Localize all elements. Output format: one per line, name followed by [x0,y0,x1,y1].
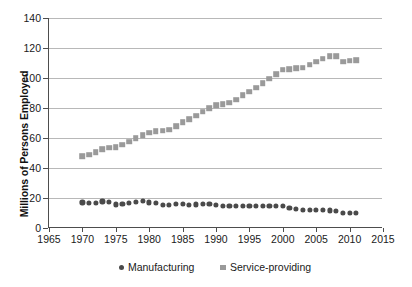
data-point [233,204,238,209]
data-point [340,59,346,65]
data-point [300,65,306,71]
data-point [180,119,186,125]
data-point [86,152,92,158]
data-point [100,146,106,152]
data-point [120,142,126,148]
data-point [113,144,119,150]
y-gridline [49,198,382,199]
legend-label-service-providing: Service-providing [230,262,311,273]
data-point [340,210,345,215]
data-point [213,102,219,108]
square-marker-icon [220,265,226,271]
data-point [213,202,218,207]
data-point [300,207,305,212]
data-point [166,127,172,133]
data-point [186,116,192,122]
data-point [100,199,105,204]
y-tick-mark [43,168,48,169]
legend-entry-service-providing: Service-providing [220,262,311,273]
legend-label-manufacturing: Manufacturing [128,262,195,273]
data-point [307,62,313,68]
data-point [93,200,98,205]
x-tick-mark [249,228,250,232]
x-tick-mark [383,228,384,232]
data-point [353,57,359,63]
data-point [327,53,333,59]
x-tick-mark [283,228,284,232]
y-tick-mark [43,198,48,199]
data-point [320,208,325,213]
y-gridline [49,108,382,109]
data-point [253,203,258,208]
data-point [260,80,266,86]
data-point [167,202,172,207]
data-point [80,153,86,159]
data-point [113,202,118,207]
data-point [160,202,165,207]
data-point [93,149,99,155]
data-point [227,204,232,209]
data-point [187,202,192,207]
data-point [260,203,265,208]
data-point [287,205,292,210]
y-gridline [49,168,382,169]
data-point [200,202,205,207]
y-gridline [49,78,382,79]
data-point [153,200,158,205]
x-tick-mark [116,228,117,232]
y-tick-mark [43,228,48,229]
data-point [120,201,125,206]
data-point [240,92,246,98]
data-point [287,66,293,72]
data-point [220,203,225,208]
x-tick-mark [216,228,217,232]
y-tick-mark [43,108,48,109]
data-point [227,100,233,106]
x-tick-mark [49,228,50,232]
data-point [333,53,339,59]
data-point [307,207,312,212]
data-point [107,199,112,204]
data-point [294,207,299,212]
data-point [147,200,152,205]
x-tick-mark [82,228,83,232]
y-tick-mark [43,48,48,49]
data-point [126,139,132,145]
x-tick-mark [350,228,351,232]
data-point [140,132,146,138]
y-tick-mark [43,138,48,139]
data-point [314,208,319,213]
data-point [280,67,286,73]
y-tick-label: 40 [1,163,41,174]
y-tick-mark [43,78,48,79]
y-tick-label: 140 [1,13,41,24]
data-point [173,201,178,206]
plot-area: 1965197019751980198519901995200020052010… [48,18,382,228]
data-point [133,199,138,204]
data-point [280,204,285,209]
chart-legend: Manufacturing Service-providing [48,262,382,273]
data-point [127,200,132,205]
data-point [180,202,185,207]
y-tick-label: 80 [1,103,41,114]
x-tick-label: 2015 [363,234,403,245]
data-point [247,203,252,208]
data-point [106,145,112,151]
data-point [327,208,332,213]
y-tick-label: 100 [1,73,41,84]
data-point [274,203,279,208]
data-point [334,208,339,213]
y-gridline [49,18,382,19]
data-point [267,203,272,208]
y-tick-label: 0 [1,223,41,234]
data-point [347,58,353,64]
data-point [153,128,159,134]
data-point [347,210,352,215]
y-tick-mark [43,18,48,19]
employment-scatter-chart: Millions of Persons Employed 19651970197… [0,0,412,287]
legend-entry-manufacturing: Manufacturing [119,262,195,273]
data-point [80,200,85,205]
data-point [193,202,198,207]
y-tick-label: 60 [1,133,41,144]
data-point [173,123,179,129]
